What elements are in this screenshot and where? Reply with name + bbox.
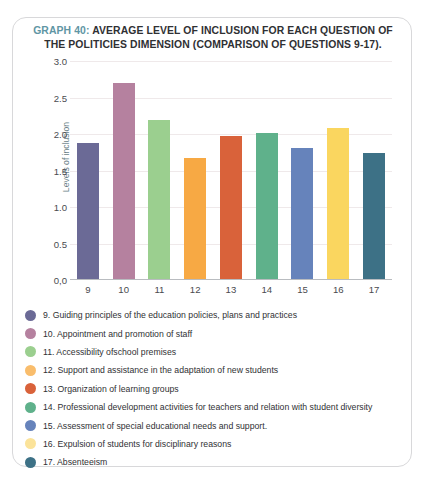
legend-item-label: 12. Support and assistance in the adapta… [43, 365, 278, 375]
y-tick-label: 2.0 [37, 129, 67, 140]
bar-13[interactable] [220, 136, 242, 279]
bar-slot [106, 60, 142, 279]
legend-item[interactable]: 12. Support and assistance in the adapta… [25, 361, 407, 379]
x-tick-label: 11 [142, 284, 178, 295]
legend-color-swatch-icon [25, 365, 36, 376]
y-tick-label: 1.0 [37, 202, 67, 213]
x-tick-label: 17 [356, 284, 392, 295]
legend-color-swatch-icon [25, 438, 36, 449]
bar-11[interactable] [148, 120, 170, 279]
legend-item-label: 11. Accessibility ofschool premises [43, 347, 176, 357]
legend-color-swatch-icon [25, 402, 36, 413]
y-tick-label: 1.5 [37, 165, 67, 176]
legend-item[interactable]: 9. Guiding principles of the education p… [25, 306, 407, 324]
chart-title-prefix: GRAPH 40: [33, 25, 89, 36]
legend-item[interactable]: 14. Professional development activities … [25, 398, 407, 416]
legend-item-label: 10. Appointment and promotion of staff [43, 329, 192, 339]
x-tick-label: 12 [177, 284, 213, 295]
bar-10[interactable] [113, 83, 135, 279]
bar-slot [320, 60, 356, 279]
legend-item-label: 9. Guiding principles of the education p… [43, 310, 297, 320]
legend-color-swatch-icon [25, 420, 36, 431]
x-axis-line [70, 279, 392, 280]
legend-color-swatch-icon [25, 383, 36, 394]
bar-17[interactable] [363, 153, 385, 279]
legend-item-label: 13. Organization of learning groups [43, 384, 179, 394]
bar-slot [142, 60, 178, 279]
legend-item-label: 15. Assessment of special educational ne… [43, 421, 267, 431]
bar-slot [213, 60, 249, 279]
legend-color-swatch-icon [25, 457, 36, 468]
x-tick-label: 14 [249, 284, 285, 295]
chart-card: GRAPH 40: AVERAGE LEVEL OF INCLUSION FOR… [12, 17, 412, 467]
chart-title: GRAPH 40: AVERAGE LEVEL OF INCLUSION FOR… [27, 24, 399, 52]
legend-item[interactable]: 16. Expulsion of students for disciplina… [25, 435, 407, 453]
legend-item[interactable]: 17. Absenteeism [25, 453, 407, 471]
bar-16[interactable] [327, 128, 349, 279]
y-tick-label: 0,0 [37, 275, 67, 286]
bar-slot [177, 60, 213, 279]
chart-title-rest: AVERAGE LEVEL OF INCLUSION FOR EACH QUES… [44, 25, 393, 50]
bar-series [70, 60, 392, 279]
x-tick-label: 10 [106, 284, 142, 295]
y-axis-ticks: 3.02.52.01.51.00.50,0 [37, 60, 67, 280]
x-tick-label: 15 [285, 284, 321, 295]
bar-slot [249, 60, 285, 279]
plot-area: Levels of inclusion 3.02.52.01.51.00.50,… [13, 60, 413, 308]
bar-14[interactable] [256, 133, 278, 279]
legend-color-swatch-icon [25, 328, 36, 339]
legend-item-label: 17. Absenteeism [43, 457, 107, 467]
plot-canvas [70, 60, 392, 280]
y-tick-label: 0.5 [37, 238, 67, 249]
legend-item[interactable]: 13. Organization of learning groups [25, 380, 407, 398]
x-tick-label: 13 [213, 284, 249, 295]
legend-color-swatch-icon [25, 346, 36, 357]
y-tick-label: 2.5 [37, 92, 67, 103]
legend-item[interactable]: 11. Accessibility ofschool premises [25, 343, 407, 361]
bar-slot [356, 60, 392, 279]
y-tick-label: 3.0 [37, 56, 67, 67]
bar-15[interactable] [291, 148, 313, 279]
legend-item-label: 14. Professional development activities … [43, 402, 372, 412]
x-tick-label: 16 [320, 284, 356, 295]
bar-9[interactable] [77, 143, 99, 280]
legend-color-swatch-icon [25, 310, 36, 321]
bar-slot [70, 60, 106, 279]
x-axis-ticks: 91011121314151617 [70, 284, 392, 295]
bar-slot [285, 60, 321, 279]
x-tick-label: 9 [70, 284, 106, 295]
legend-item-label: 16. Expulsion of students for disciplina… [43, 439, 231, 449]
legend-item[interactable]: 10. Appointment and promotion of staff [25, 324, 407, 342]
chart-legend: 9. Guiding principles of the education p… [25, 306, 407, 472]
bar-12[interactable] [184, 158, 206, 279]
legend-item[interactable]: 15. Assessment of special educational ne… [25, 416, 407, 434]
